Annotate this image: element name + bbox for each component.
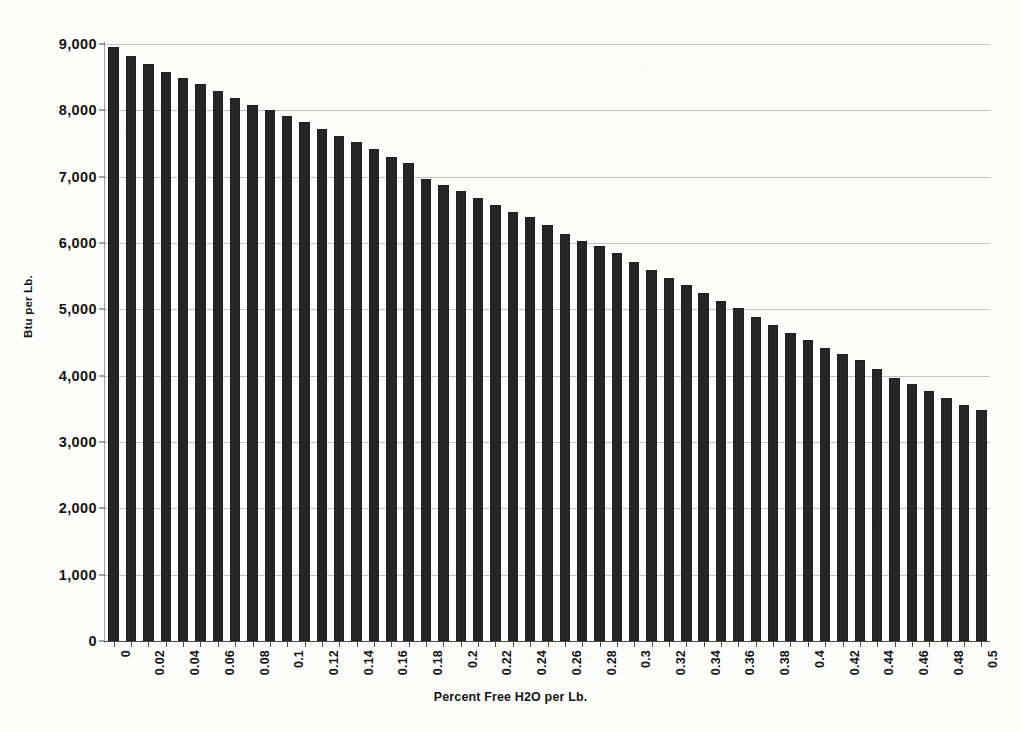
bar	[733, 308, 743, 641]
bar	[403, 163, 413, 641]
x-tick-mark	[322, 641, 323, 647]
x-tick-mark	[981, 641, 982, 647]
x-tick-mark	[808, 641, 809, 647]
y-tick-mark	[99, 44, 105, 45]
bar	[126, 56, 136, 641]
x-tick-mark	[131, 641, 132, 647]
x-tick-label: 0.12	[327, 650, 341, 675]
x-tick-mark	[253, 641, 254, 647]
x-tick-label: 0.28	[605, 650, 619, 675]
bar	[421, 179, 431, 641]
bar	[351, 142, 361, 641]
x-tick-mark	[721, 641, 722, 647]
x-tick-mark	[843, 641, 844, 647]
bar	[855, 360, 865, 641]
bar	[803, 340, 813, 641]
x-tick-mark	[565, 641, 566, 647]
bar	[820, 348, 830, 641]
x-tick-mark	[790, 641, 791, 647]
x-tick-label: 0.46	[917, 650, 931, 675]
bar	[577, 241, 587, 641]
bar	[560, 234, 570, 641]
x-tick-mark	[235, 641, 236, 647]
bar	[872, 369, 882, 641]
bar	[837, 354, 847, 641]
x-tick-label: 0.06	[223, 650, 237, 675]
x-tick-mark	[964, 641, 965, 647]
bar	[299, 122, 309, 641]
x-tick-label: 0.4	[813, 650, 827, 668]
bar	[195, 84, 205, 641]
x-tick-mark	[461, 641, 462, 647]
bar	[941, 398, 951, 641]
x-tick-label: 0	[119, 650, 133, 657]
x-tick-mark	[877, 641, 878, 647]
x-tick-label: 0.1	[292, 650, 306, 668]
x-tick-label: 0.18	[431, 650, 445, 675]
bar	[334, 136, 344, 641]
x-tick-mark	[530, 641, 531, 647]
x-tick-mark	[895, 641, 896, 647]
x-tick-mark	[374, 641, 375, 647]
bar	[751, 317, 761, 641]
x-tick-mark	[495, 641, 496, 647]
y-tick-mark	[99, 508, 105, 509]
plot-area	[105, 44, 990, 641]
x-tick-mark	[582, 641, 583, 647]
x-tick-mark	[686, 641, 687, 647]
bar	[230, 98, 240, 641]
bar	[456, 191, 466, 641]
bar	[108, 47, 118, 641]
x-tick-mark	[478, 641, 479, 647]
bar	[629, 262, 639, 641]
x-tick-mark	[218, 641, 219, 647]
x-tick-mark	[339, 641, 340, 647]
y-axis-line	[104, 42, 105, 643]
bar	[646, 270, 656, 641]
x-tick-mark	[773, 641, 774, 647]
x-tick-label: 0.48	[952, 650, 966, 675]
x-tick-label: 0.26	[570, 650, 584, 675]
x-tick-label: 0.02	[153, 650, 167, 675]
x-tick-mark	[357, 641, 358, 647]
x-tick-label: 0.34	[709, 650, 723, 675]
x-tick-mark	[652, 641, 653, 647]
bar	[612, 253, 622, 641]
bar	[542, 225, 552, 641]
x-tick-mark	[409, 641, 410, 647]
bar	[161, 72, 171, 641]
y-axis-title: Btu per Lb.	[22, 275, 34, 338]
bar-chart-figure: 01,0002,0003,0004,0005,0006,0007,0008,00…	[0, 0, 1021, 732]
bar	[213, 91, 223, 641]
x-tick-mark	[183, 641, 184, 647]
x-tick-mark	[825, 641, 826, 647]
bar	[959, 405, 969, 641]
y-tick-mark	[99, 309, 105, 310]
x-tick-mark	[860, 641, 861, 647]
x-tick-mark	[704, 641, 705, 647]
x-tick-label: 0.38	[778, 650, 792, 675]
x-tick-mark	[738, 641, 739, 647]
y-axis-ticks: 01,0002,0003,0004,0005,0006,0007,0008,00…	[0, 0, 97, 732]
x-tick-mark	[929, 641, 930, 647]
x-tick-mark	[634, 641, 635, 647]
x-tick-label: 0.3	[639, 650, 653, 668]
x-tick-label: 0.22	[500, 650, 514, 675]
x-tick-label: 0.14	[362, 650, 376, 675]
bar	[508, 212, 518, 641]
y-tick-label: 6,000	[11, 235, 97, 251]
x-tick-mark	[947, 641, 948, 647]
x-tick-mark	[305, 641, 306, 647]
bar	[594, 246, 604, 641]
x-tick-label: 0.04	[188, 650, 202, 675]
x-tick-label: 0.5	[986, 650, 1000, 668]
bar	[438, 185, 448, 641]
y-tick-label: 3,000	[11, 434, 97, 450]
x-tick-mark	[617, 641, 618, 647]
x-tick-label: 0.32	[674, 650, 688, 675]
bar	[525, 217, 535, 641]
y-tick-mark	[99, 574, 105, 575]
bar	[247, 105, 257, 641]
x-tick-mark	[270, 641, 271, 647]
y-tick-label: 4,000	[11, 368, 97, 384]
